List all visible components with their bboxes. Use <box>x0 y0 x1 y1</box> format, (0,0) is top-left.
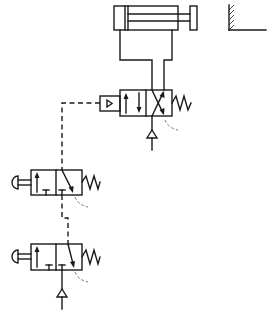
pilot-line-series <box>62 195 68 244</box>
valve2-arrowhead <box>35 246 40 252</box>
pressure-source-icon <box>147 130 157 138</box>
cross-arrowhead-2 <box>160 108 165 115</box>
pushbutton-icon[interactable] <box>12 176 18 189</box>
valve2-roller-trace <box>75 272 88 282</box>
double-acting-cylinder <box>114 6 197 30</box>
valve1-arrowhead <box>35 172 40 178</box>
pilot-line-main <box>62 103 100 170</box>
valve1-roller-trace <box>75 197 88 207</box>
cylinder-barrel <box>114 6 178 30</box>
signal-pressure-source-icon <box>57 289 67 297</box>
arrowhead-up <box>124 93 129 99</box>
line-cap-end <box>120 30 152 90</box>
pushbutton-valve-1[interactable] <box>12 170 100 207</box>
spring-icon <box>172 96 191 110</box>
pneumatic-circuit-diagram <box>0 0 277 314</box>
valve1-spring-icon <box>82 176 100 189</box>
valve2-spring-icon <box>82 250 100 264</box>
arrowhead-down <box>137 107 142 113</box>
valve1-diagonal-arrowhead <box>69 186 74 193</box>
main-pilot-valve <box>100 90 191 150</box>
pilot-triangle-icon <box>107 100 112 107</box>
wall-hatching <box>229 5 234 30</box>
rod-end-block <box>190 6 197 30</box>
wall-stop <box>229 5 266 30</box>
cross-arrowhead-1 <box>160 91 165 98</box>
pushbutton-icon[interactable] <box>12 250 18 263</box>
valve2-diagonal-arrowhead <box>70 261 75 268</box>
cylinder-supply-lines <box>120 30 172 90</box>
pushbutton-valve-2[interactable] <box>12 244 100 309</box>
roller-trace <box>165 120 178 130</box>
line-rod-end <box>164 30 172 90</box>
valve2-flow-diagonal <box>68 244 73 264</box>
